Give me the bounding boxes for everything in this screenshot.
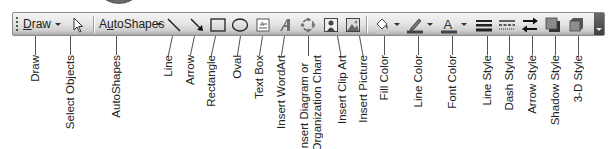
arrow-style-icon[interactable] xyxy=(521,16,539,34)
leader-line xyxy=(384,36,385,55)
callout-insert-picture: Insert Picture xyxy=(357,55,369,123)
chevron-down-icon xyxy=(55,23,61,26)
pen-icon[interactable] xyxy=(406,16,424,34)
drawing-toolbar: Draw AutoShapes A xyxy=(12,12,605,36)
callout-rectangle: Rectangle xyxy=(205,55,217,107)
separator xyxy=(366,16,367,33)
callout-fill-color: Fill Color xyxy=(378,55,390,100)
picture-icon[interactable] xyxy=(344,16,362,34)
callout-insert-wordart: Insert WordArt xyxy=(275,55,287,129)
callout-3d-style: 3-D Style xyxy=(572,55,584,102)
callout-draw: Draw xyxy=(29,55,41,82)
callout-arrow-style: Arrow Style xyxy=(526,55,538,114)
callout-select-objects: Select Objects xyxy=(64,55,76,129)
oval-icon[interactable] xyxy=(231,16,249,34)
separator xyxy=(93,16,94,33)
leader-line xyxy=(487,36,488,55)
leader-line xyxy=(359,36,363,56)
callout-line-color: Line Color xyxy=(412,55,424,107)
leader-line xyxy=(452,36,453,55)
text-box-icon[interactable]: A xyxy=(254,16,272,34)
toolbar-grip-handle[interactable] xyxy=(16,17,18,32)
leader-line xyxy=(509,36,510,55)
chevron-down-icon xyxy=(156,23,162,26)
autoshapes-menu-button[interactable]: AutoShapes xyxy=(99,17,164,31)
leader-line xyxy=(418,36,419,55)
leader-line xyxy=(237,36,241,56)
leader-line xyxy=(211,36,216,56)
leader-line xyxy=(190,36,195,56)
chevron-down-icon[interactable] xyxy=(427,23,433,26)
clip-art-icon[interactable] xyxy=(322,16,340,34)
draw-label: raw xyxy=(32,17,51,31)
callout-font-color: Font Color xyxy=(446,55,458,109)
callout-oval: Oval xyxy=(231,55,243,79)
callout-arrow: Arrow xyxy=(184,55,196,85)
callout-insert-diagram: Insert Diagram orOrganization Chart xyxy=(298,55,324,149)
leader-line xyxy=(116,36,117,55)
callout-shadow-style: Shadow Style xyxy=(549,55,561,125)
toolbar-options-button[interactable] xyxy=(594,13,604,35)
callout-dash-style: Dash Style xyxy=(503,55,515,111)
leader-line xyxy=(281,36,285,56)
leader-line xyxy=(337,36,341,56)
3d-style-icon[interactable] xyxy=(567,16,585,34)
callout-line-style: Line Style xyxy=(481,55,493,106)
pointer-icon[interactable] xyxy=(70,16,88,34)
leader-line xyxy=(168,36,173,56)
autoshapes-pre: A xyxy=(99,17,107,31)
draw-menu-button[interactable]: Draw xyxy=(23,17,51,31)
svg-text:A: A xyxy=(444,17,453,32)
leader-line xyxy=(35,36,36,55)
draw-accel: D xyxy=(23,17,32,31)
callout-line: Line xyxy=(162,55,174,77)
leader-line xyxy=(578,36,579,55)
paint-bucket-icon[interactable] xyxy=(373,16,391,34)
callout-text-box: Text Box xyxy=(253,55,265,99)
callout-autoshapes: AutoShapes xyxy=(110,55,122,118)
font-color-icon[interactable]: A xyxy=(440,16,458,34)
rectangle-icon[interactable] xyxy=(209,16,227,34)
diagram-icon[interactable] xyxy=(299,16,317,34)
leader-line xyxy=(259,36,263,56)
leader-line xyxy=(70,36,71,55)
decorative-knob xyxy=(103,0,135,4)
callout-insert-diagram-line2: Organization Chart xyxy=(311,55,323,149)
leader-line xyxy=(308,36,309,56)
line-icon[interactable] xyxy=(165,16,183,34)
wordart-icon[interactable] xyxy=(276,16,294,34)
autoshapes-accel: u xyxy=(107,17,114,31)
chevron-down-icon[interactable] xyxy=(394,23,400,26)
leader-line xyxy=(555,36,556,55)
dash-style-icon[interactable] xyxy=(498,16,516,34)
shadow-style-icon[interactable] xyxy=(544,16,562,34)
leader-line xyxy=(532,36,533,55)
line-style-icon[interactable] xyxy=(475,16,493,34)
arrow-icon[interactable] xyxy=(188,16,206,34)
callout-insert-clip-art: Insert Clip Art xyxy=(336,55,348,124)
callout-insert-diagram-line1: Insert Diagram or xyxy=(298,63,310,149)
chevron-down-icon[interactable] xyxy=(461,23,467,26)
